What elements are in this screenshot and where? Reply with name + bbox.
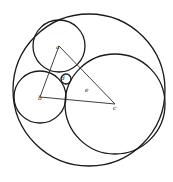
label-e: e: [85, 86, 89, 93]
outer-circle: [13, 14, 165, 166]
label-b: b: [38, 94, 42, 101]
label-c: c: [113, 104, 117, 111]
tangent-circles-diagram: a b c d e: [0, 0, 173, 182]
segment-bc: [40, 97, 115, 104]
label-a: a: [56, 43, 60, 50]
label-d: d: [61, 74, 65, 81]
